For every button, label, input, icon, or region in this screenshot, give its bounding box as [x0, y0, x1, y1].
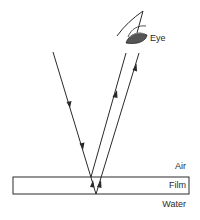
arrow-up-icon — [97, 180, 102, 188]
film-label: Film — [169, 181, 186, 190]
eye-label: Eye — [150, 34, 166, 43]
air-label: Air — [175, 162, 186, 171]
arrow-down-icon — [67, 101, 72, 108]
thin-film-diagram: Eye Air Film Water — [0, 0, 200, 220]
water-label: Water — [162, 200, 186, 209]
reflected-ray-top — [90, 53, 126, 188]
eye-icon — [117, 11, 147, 44]
reflected-ray-bottom — [96, 53, 139, 194]
arrow-up-icon — [133, 64, 138, 72]
incident-ray — [53, 52, 96, 194]
